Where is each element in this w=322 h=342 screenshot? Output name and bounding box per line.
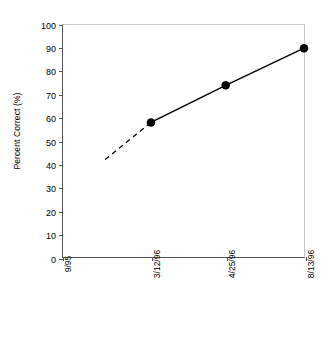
y-tick-label: 80 (46, 68, 56, 77)
y-tick-label: 10 (46, 232, 56, 241)
y-tick-label: 90 (46, 44, 56, 53)
y-tick-label: 0 (51, 255, 56, 264)
data-point-marker (221, 81, 230, 90)
x-tick-label-text: 9/95 (63, 256, 73, 273)
y-axis-title: Percent Correct (%) (6, 0, 26, 262)
y-axis-title-label: Percent Correct (%) (11, 92, 21, 169)
y-tick-label: 40 (46, 161, 56, 170)
y-tick-label: 30 (46, 185, 56, 194)
y-tick-label: 50 (46, 138, 56, 147)
y-tick-label: 60 (46, 115, 56, 124)
plot-frame: 0102030405060708090100 9/953/12/964/25/9… (62, 24, 305, 258)
data-series-layer (63, 25, 304, 257)
y-tick-label: 100 (41, 21, 56, 30)
y-tick-label: 20 (46, 208, 56, 217)
plot-area (63, 25, 304, 257)
data-point-marker (300, 44, 309, 53)
y-tick-label: 70 (46, 91, 56, 100)
x-tick-label-text: 8/13/96 (306, 250, 316, 278)
chart-container: Percent Correct (%) 01020304050607080901… (0, 0, 322, 342)
series-line (105, 122, 151, 159)
